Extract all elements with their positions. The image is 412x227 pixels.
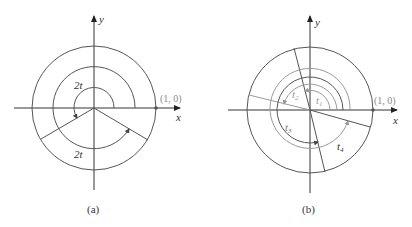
- ray-lower-terminal: [94, 108, 148, 140]
- arc-label-t2: t2: [292, 88, 299, 102]
- figure: y x (1, 0) 2t 2t (a) y x (1, 0): [0, 0, 412, 227]
- panel-b: y x (1, 0) t1 t2 t3 t4 (b): [228, 16, 398, 216]
- arc-label-t3: t3: [285, 121, 292, 135]
- arc-label-lower: 2t: [74, 148, 84, 160]
- x-axis-label: x: [175, 111, 181, 123]
- panel-a: y x (1, 0) 2t 2t (a): [14, 13, 182, 216]
- point-label: (1, 0): [160, 93, 182, 105]
- x-axis-label: x: [392, 114, 398, 126]
- caption-a: (a): [87, 203, 100, 216]
- point-1-0: [371, 108, 375, 112]
- y-axis-label: y: [314, 16, 320, 28]
- arc-label-t4: t4: [337, 140, 344, 154]
- ray-upper-terminal: [41, 108, 94, 139]
- point-label: (1, 0): [374, 95, 396, 107]
- y-axis-label: y: [98, 13, 104, 25]
- point-1-0: [154, 106, 158, 110]
- ray-t4: [310, 110, 370, 127]
- caption-b: (b): [302, 203, 315, 216]
- arc-label-t1: t1: [316, 94, 323, 108]
- ray-t3: [310, 110, 325, 172]
- arc-label-upper: 2t: [74, 79, 84, 91]
